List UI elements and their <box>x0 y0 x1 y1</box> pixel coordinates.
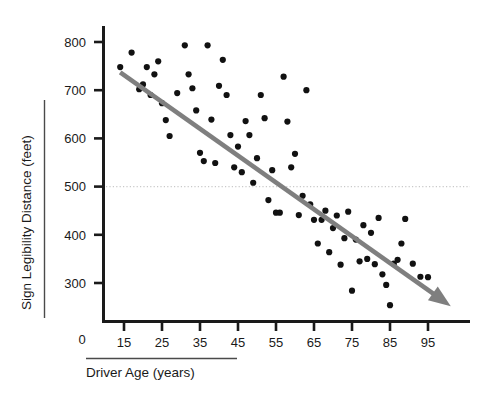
scatter-point <box>144 64 150 70</box>
scatter-point <box>303 87 309 93</box>
scatter-point <box>239 169 245 175</box>
y-axis-tick-label: 500 <box>64 179 86 194</box>
scatter-point <box>269 167 275 173</box>
scatter-point <box>410 261 416 267</box>
scatter-point <box>220 57 226 63</box>
scatter-point <box>341 235 347 241</box>
scatter-point <box>205 42 211 48</box>
scatter-point <box>201 158 207 164</box>
scatter-point <box>315 240 321 246</box>
scatter-point <box>163 117 169 123</box>
scatter-point <box>376 215 382 221</box>
y-axis-tick-label: 700 <box>64 83 86 98</box>
scatter-point <box>360 222 366 228</box>
scatter-point <box>208 117 214 123</box>
scatter-point <box>216 83 222 89</box>
scatter-point <box>235 143 241 149</box>
scatter-point <box>322 208 328 214</box>
scatter-point <box>254 155 260 161</box>
scatter-point <box>243 118 249 124</box>
scatter-plot-figure: 300400500600700800 152535455565758595 0 … <box>0 0 479 401</box>
x-axis-tick-label: 55 <box>269 335 283 350</box>
scatter-point <box>231 164 237 170</box>
y-axis-tick-label: 300 <box>64 276 86 291</box>
scatter-point <box>189 85 195 91</box>
scatter-point <box>193 107 199 113</box>
scatter-point <box>338 262 344 268</box>
scatter-point <box>117 64 123 70</box>
scatter-point <box>311 217 317 223</box>
scatter-point <box>417 274 423 280</box>
sign-legibility-scatter-chart: 300400500600700800 152535455565758595 0 … <box>0 0 479 401</box>
scatter-point <box>402 216 408 222</box>
scatter-point <box>387 302 393 308</box>
y-axis-ticks: 300400500600700800 <box>64 35 104 291</box>
trend-line-arrowhead <box>428 286 451 306</box>
scatter-point <box>383 282 389 288</box>
x-axis-tick-label: 95 <box>421 335 435 350</box>
scatter-point <box>246 132 252 138</box>
scatter-point <box>326 249 332 255</box>
scatter-point <box>129 50 135 56</box>
scatter-point <box>186 71 192 77</box>
x-axis-tick-label: 85 <box>383 335 397 350</box>
scatter-point <box>334 212 340 218</box>
scatter-point <box>368 230 374 236</box>
x-axis-tick-label: 35 <box>193 335 207 350</box>
scatter-point <box>345 209 351 215</box>
scatter-point <box>182 42 188 48</box>
x-axis-tick-label: 65 <box>307 335 321 350</box>
scatter-point <box>151 71 157 77</box>
scatter-point <box>258 92 264 98</box>
y-axis-tick-label: 600 <box>64 131 86 146</box>
scatter-point <box>281 74 287 80</box>
trend-line-group <box>120 72 451 306</box>
scatter-point <box>364 256 370 262</box>
scatter-point <box>265 197 271 203</box>
scatter-point <box>277 210 283 216</box>
trend-line-shaft <box>120 72 437 296</box>
x-axis-tick-label: 45 <box>231 335 245 350</box>
y-axis-tick-label: 400 <box>64 228 86 243</box>
scatter-point <box>197 150 203 156</box>
scatter-point <box>296 212 302 218</box>
scatter-point <box>174 90 180 96</box>
scatter-point <box>262 115 268 121</box>
y-axis-title: Sign Legibility Distance (feet) <box>19 135 34 310</box>
scatter-points-group <box>117 42 439 308</box>
x-axis-tick-label: 75 <box>345 335 359 350</box>
scatter-point <box>425 274 431 280</box>
scatter-point <box>288 164 294 170</box>
x-axis-tick-label: 25 <box>155 335 169 350</box>
scatter-point <box>292 151 298 157</box>
scatter-point <box>349 288 355 294</box>
scatter-point <box>372 261 378 267</box>
origin-zero-label: 0 <box>78 332 85 347</box>
x-axis-tick-label: 15 <box>117 335 131 350</box>
x-axis-title: Driver Age (years) <box>86 365 195 380</box>
scatter-point <box>395 257 401 263</box>
scatter-point <box>224 92 230 98</box>
scatter-point <box>212 160 218 166</box>
scatter-point <box>357 258 363 264</box>
x-axis-ticks: 152535455565758595 <box>117 321 435 350</box>
scatter-point <box>155 58 161 64</box>
scatter-point <box>379 271 385 277</box>
y-axis-tick-label: 800 <box>64 35 86 50</box>
scatter-point <box>284 118 290 124</box>
scatter-point <box>250 180 256 186</box>
scatter-point <box>227 132 233 138</box>
scatter-point <box>398 240 404 246</box>
scatter-point <box>167 133 173 139</box>
